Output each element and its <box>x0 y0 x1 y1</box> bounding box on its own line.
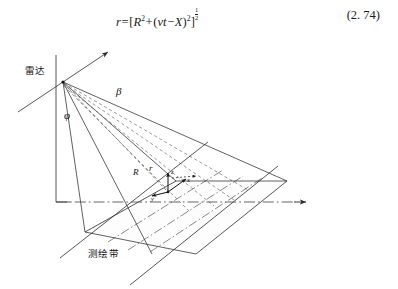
diagram-canvas <box>0 0 398 289</box>
sar-geometry-diagram: 雷达 β φ R r z x y 测绘带 <box>0 0 398 289</box>
range-R-label: R <box>133 168 139 177</box>
range-r-label: r <box>149 164 153 173</box>
radar-label: 雷达 <box>25 66 46 76</box>
swath-label: 测绘带 <box>88 249 119 259</box>
range-lines <box>63 83 168 192</box>
swath-surface <box>85 181 287 254</box>
phi-angle-label: φ <box>64 110 70 121</box>
radar-apex-point <box>61 80 64 83</box>
axis-ref-tick <box>172 176 196 178</box>
axis-z-label: z <box>171 169 174 176</box>
beta-angle-label: β <box>116 86 121 97</box>
scene-center-point <box>167 191 170 194</box>
axis-y-label: y <box>151 196 154 203</box>
axis-x-label: x <box>187 177 190 184</box>
